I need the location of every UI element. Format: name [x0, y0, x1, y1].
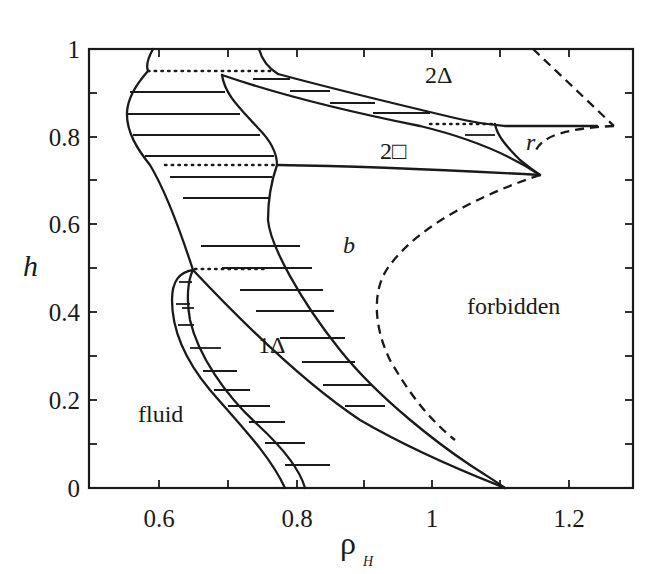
region-label-1delta: 1Δ: [258, 332, 285, 358]
x-axis-title-subscript: H: [362, 554, 374, 569]
spinodal-upper: [533, 49, 614, 126]
region-label-r: r: [526, 129, 536, 155]
x-tick-label: 1: [426, 505, 439, 532]
region-labels: fluid 1Δ b 2□ 2Δ r forbidden: [138, 62, 560, 427]
phase-diagram-plot: 0.6 0.8 1 1.2 1 0.8 0.6 0.4 0.2 0 h ρ H: [0, 0, 666, 574]
y-tick-label: 0.4: [49, 299, 81, 326]
x-tick-label: 0.8: [281, 505, 312, 532]
x-axis-title: ρ: [340, 525, 356, 561]
y-axis-title: h: [23, 249, 38, 282]
y-tick-label: 0.8: [49, 124, 80, 151]
y-tick-label: 0.2: [49, 387, 80, 414]
tie-lines-1delta-band: [176, 282, 330, 465]
x-tick-label: 1.2: [553, 505, 584, 532]
x-tick-labels: 0.6 0.8 1 1.2: [143, 505, 584, 532]
boundary-2square-lower: [277, 165, 540, 175]
region-label-b: b: [343, 232, 355, 258]
y-tick-label: 0: [68, 475, 81, 502]
x-tick-label: 0.6: [143, 505, 174, 532]
phase-diagram-figure: 0.6 0.8 1 1.2 1 0.8 0.6 0.4 0.2 0 h ρ H: [0, 0, 666, 574]
region-label-2delta: 2Δ: [425, 62, 452, 88]
boundary-1delta-right: [188, 270, 305, 488]
region-label-fluid: fluid: [138, 401, 183, 427]
spinodal-r: [535, 126, 614, 153]
y-tick-label: 0.6: [49, 211, 80, 238]
region-label-forbidden: forbidden: [467, 293, 560, 319]
region-label-2square: 2□: [380, 138, 407, 164]
y-axis-ticks: [89, 93, 633, 444]
y-tick-labels: 1 0.8 0.6 0.4 0.2 0: [49, 36, 81, 502]
y-tick-label: 1: [68, 36, 81, 63]
